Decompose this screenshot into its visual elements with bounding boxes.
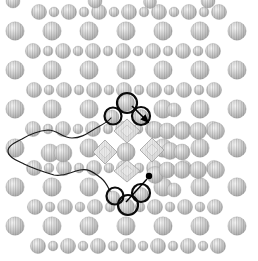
atom-texture	[90, 238, 105, 253]
atom-texture	[154, 61, 172, 79]
atom-texture	[75, 202, 85, 212]
atom-texture	[115, 43, 130, 58]
atom-texture	[6, 217, 24, 235]
atom-texture	[210, 238, 225, 253]
atom-texture	[6, 61, 24, 79]
atom-texture	[168, 241, 178, 251]
displaced-atom-texture	[190, 162, 207, 179]
atom-texture	[177, 199, 192, 214]
atom-texture	[133, 46, 143, 56]
atom-texture	[43, 46, 53, 56]
atom-texture	[86, 82, 101, 97]
atom-texture	[117, 22, 135, 40]
atom-texture	[150, 238, 165, 253]
atom-texture	[193, 46, 203, 56]
atom-texture	[175, 43, 190, 58]
atom-texture	[205, 43, 220, 58]
figure-canvas	[0, 0, 258, 261]
atom-texture	[85, 43, 100, 58]
atom-texture	[169, 7, 179, 17]
atom-texture	[117, 217, 135, 235]
atom-texture	[180, 238, 195, 253]
atom-texture	[30, 238, 45, 253]
atom-texture	[43, 22, 61, 40]
atom-texture	[43, 124, 53, 134]
crystal-lattice-defect-figure	[0, 0, 258, 261]
atom-texture	[207, 199, 222, 214]
atom-texture	[43, 61, 61, 79]
atom-texture	[181, 4, 196, 19]
atom-texture	[31, 4, 46, 19]
atom-texture	[206, 82, 221, 97]
atom-texture	[56, 82, 71, 97]
atom-texture	[198, 241, 208, 251]
atom-texture	[87, 199, 102, 214]
atom-texture	[80, 178, 98, 196]
atom-texture	[195, 202, 205, 212]
atom-texture	[154, 217, 172, 235]
atom-texture	[228, 139, 246, 157]
atom-texture	[211, 4, 226, 19]
atom-texture	[146, 82, 161, 97]
atom-texture	[191, 217, 209, 235]
atom-texture	[134, 85, 144, 95]
atom-texture	[104, 163, 114, 173]
atom-texture	[120, 238, 135, 253]
atom-texture	[80, 61, 98, 79]
displaced-atom-texture	[208, 123, 225, 140]
atom-texture	[44, 163, 54, 173]
atom-texture	[55, 43, 70, 58]
atom-texture	[26, 82, 41, 97]
displaced-atom-texture	[159, 162, 175, 178]
atom-texture	[73, 124, 83, 134]
displaced-atom-texture	[54, 144, 72, 162]
displaced-atom-texture	[174, 123, 191, 140]
atom-texture	[145, 43, 160, 58]
displaced-atom-texture	[174, 144, 190, 160]
atom-texture	[43, 178, 61, 196]
atom-texture	[191, 178, 209, 196]
atom-texture	[199, 7, 209, 17]
displaced-atom-texture	[174, 162, 191, 179]
atom-texture	[191, 22, 209, 40]
atom-texture	[117, 61, 135, 79]
atom-texture	[109, 7, 119, 17]
atom-texture	[121, 4, 136, 19]
atom-texture	[80, 100, 98, 118]
atom-texture	[228, 61, 246, 79]
atom-texture	[228, 217, 246, 235]
atom-texture	[194, 85, 204, 95]
atom-texture	[103, 46, 113, 56]
atom-texture	[73, 46, 83, 56]
atom-texture	[103, 124, 113, 134]
atom-texture	[43, 100, 61, 118]
atom-texture	[44, 85, 54, 95]
atom-texture	[228, 22, 246, 40]
atom-texture	[104, 85, 114, 95]
atom-texture	[163, 46, 173, 56]
atom-texture	[57, 199, 72, 214]
atom-texture	[74, 85, 84, 95]
marker-dot	[146, 173, 152, 179]
atom-texture	[228, 178, 246, 196]
atom-texture	[60, 238, 75, 253]
atom-texture	[191, 100, 209, 118]
atom-texture	[25, 43, 40, 58]
atom-texture	[228, 100, 246, 118]
atom-texture	[27, 199, 42, 214]
displaced-atom-texture	[208, 162, 225, 179]
atom-texture	[154, 22, 172, 40]
displaced-atom-texture	[159, 123, 175, 139]
displaced-atom-texture	[167, 183, 181, 197]
atom-texture	[138, 241, 148, 251]
atom-texture	[49, 7, 59, 17]
atom-texture	[85, 121, 100, 136]
atom-texture	[45, 202, 55, 212]
central-atom-texture	[117, 143, 135, 161]
atom-texture	[147, 199, 162, 214]
atom-texture	[6, 100, 24, 118]
atom-texture	[55, 121, 70, 136]
atom-texture	[25, 121, 40, 136]
atom-texture	[6, 178, 24, 196]
atom-texture	[80, 217, 98, 235]
